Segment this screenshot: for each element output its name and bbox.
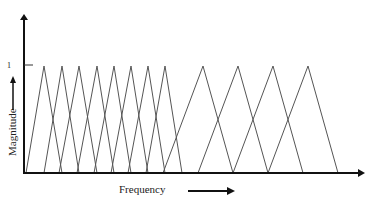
filter-triangle bbox=[198, 66, 268, 173]
x-axis-arrowhead-icon bbox=[358, 169, 365, 177]
y-tick-label: 1 bbox=[7, 61, 11, 70]
up-arrow-icon bbox=[10, 76, 16, 83]
filter-bank-diagram: 1 Magnitude Frequency bbox=[0, 0, 375, 202]
x-axis-label: Frequency bbox=[119, 183, 166, 195]
filter-triangle bbox=[268, 66, 338, 173]
triangular-filters bbox=[26, 66, 338, 173]
filter-triangle bbox=[77, 66, 114, 173]
y-axis-label: Magnitude bbox=[6, 108, 18, 156]
filter-triangle bbox=[146, 66, 182, 173]
y-axis-arrowhead-icon bbox=[20, 14, 28, 20]
right-arrow-icon bbox=[227, 187, 235, 195]
filter-triangle bbox=[26, 66, 62, 173]
filter-triangle bbox=[233, 66, 303, 173]
